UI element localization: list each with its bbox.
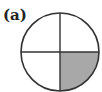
quartered-circle-diagram <box>0 0 102 92</box>
